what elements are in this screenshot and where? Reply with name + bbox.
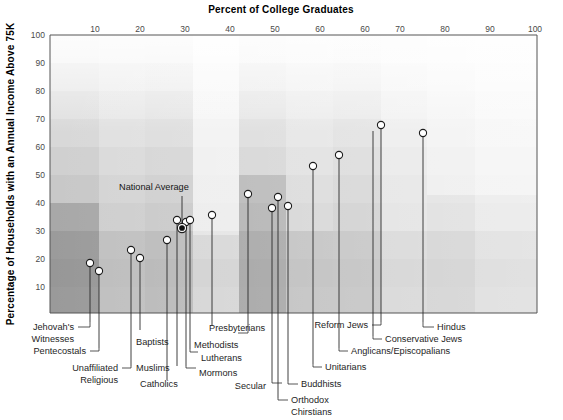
point-labels: Jehovah's Witnesses Pentecostals Unaffil… (32, 320, 466, 417)
label-pentecostals: Pentecostals (33, 346, 86, 356)
data-point-muslims[interactable] (173, 216, 180, 223)
data-point-jehovahs-witnesses[interactable] (86, 259, 93, 266)
label-muslims: Muslims (136, 363, 170, 373)
data-point-pentecostals[interactable] (95, 267, 102, 274)
label-jehovahs-witnesses-line2: Witnesses (32, 334, 75, 344)
data-point-buddhists[interactable] (284, 202, 291, 209)
label-jehovahs-witnesses-line1: Jehovah's (33, 322, 74, 332)
y-tick: 50 (36, 170, 46, 180)
label-conservative-jews: Conservative Jews (385, 334, 463, 344)
x-tick: 100 (528, 24, 542, 34)
national-average-annotation: National Average (119, 182, 189, 192)
label-methodists: Methodists (194, 340, 239, 350)
scatter-plot-figure: Percent of College Graduates Percentage … (0, 0, 563, 420)
y-tick: 30 (36, 226, 46, 236)
data-point-hindus[interactable] (419, 129, 426, 136)
data-point-national-average[interactable] (180, 226, 185, 231)
data-point-reform-jews[interactable] (377, 121, 384, 128)
data-point-methodists[interactable] (244, 190, 251, 197)
y-tick: 100 (31, 30, 45, 40)
label-religious: Religious (80, 375, 118, 385)
label-anglicans: Anglicans/Episcopalians (351, 346, 450, 356)
y-tick: 90 (36, 58, 46, 68)
x-tick: 30 (180, 24, 190, 34)
label-orthodox-line2: Chirstians (291, 407, 332, 417)
x-tick: 40 (225, 24, 235, 34)
y-tick: 40 (36, 198, 46, 208)
label-lutherans: Lutherans (201, 353, 242, 363)
data-point-baptists[interactable] (136, 254, 143, 261)
chart-container: Percent of College Graduates Percentage … (0, 0, 563, 420)
x-tick-60b: 60 (360, 24, 370, 34)
data-point-anglicans-episcopalians[interactable] (335, 151, 342, 158)
y-axis-ticks: 10 20 30 40 50 60 70 80 90 100 (31, 30, 45, 292)
label-mormons: Mormons (199, 368, 238, 378)
label-baptists: Baptists (136, 337, 169, 347)
y-tick: 10 (36, 282, 46, 292)
data-point-orthodox-christians[interactable] (274, 193, 281, 200)
y-tick: 60 (36, 142, 46, 152)
x-tick: 10 (90, 24, 100, 34)
data-point-presbyterians[interactable] (208, 211, 215, 218)
label-unitarians: Unitarians (325, 362, 367, 372)
label-orthodox-line1: Orthodox (291, 395, 329, 405)
y-tick: 70 (36, 114, 46, 124)
y-tick: 80 (36, 86, 46, 96)
x-tick: 20 (135, 24, 145, 34)
label-reform-jews: Reform Jews (314, 320, 368, 330)
y-axis-title: Percentage of Households with an Annual … (5, 22, 16, 325)
label-presbyterians: Presbyterians (209, 323, 266, 333)
x-tick: 50 (270, 24, 280, 34)
label-catholics: Catholics (140, 379, 178, 389)
data-point-catholics[interactable] (163, 236, 170, 243)
label-buddhists: Buddhists (301, 379, 342, 389)
x-tick: 60 (315, 24, 325, 34)
label-secular: Secular (235, 381, 266, 391)
x-axis-ticks: 10 20 30 40 50 60 70 80 90 100 60 (90, 24, 542, 34)
label-hindus: Hindus (437, 322, 466, 332)
data-point-secular[interactable] (268, 204, 275, 211)
x-tick: 70 (395, 24, 405, 34)
data-point-lutherans[interactable] (186, 216, 193, 223)
x-tick: 80 (440, 24, 450, 34)
y-tick: 20 (36, 254, 46, 264)
heatmap-background (50, 35, 537, 313)
data-point-unaffiliated-religious[interactable] (127, 246, 134, 253)
x-tick: 90 (485, 24, 495, 34)
label-unaffiliated: Unaffiliated (72, 363, 118, 373)
data-point-unitarians[interactable] (309, 162, 316, 169)
chart-title: Percent of College Graduates (208, 4, 354, 15)
